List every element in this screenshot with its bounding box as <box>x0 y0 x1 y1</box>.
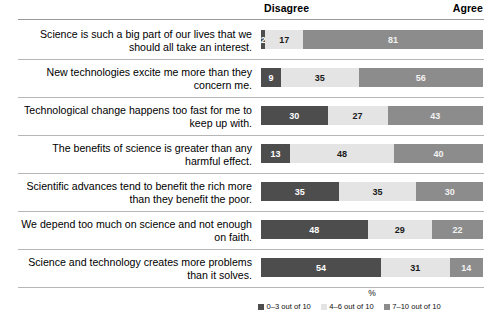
stacked-bar: 482922 <box>261 220 483 239</box>
bar-segment-value: 35 <box>373 187 383 197</box>
row-label-line2: keep up with. <box>190 117 252 130</box>
legend-label: 4–6 out of 10 <box>329 302 373 311</box>
row-question-label: Science and technology creates more prob… <box>14 250 252 288</box>
bar-segment-value: 35 <box>315 73 325 83</box>
bar-segment: 43 <box>388 106 483 125</box>
row-label-line1: Science is such a big part of our lives … <box>40 28 252 41</box>
stacked-bar: 302743 <box>261 106 483 125</box>
bar-segment-value: 22 <box>452 225 462 235</box>
bar-segment: 48 <box>261 220 368 239</box>
legend-item[interactable]: 7–10 out of 10 <box>384 302 441 311</box>
bar-segment: 40 <box>394 144 483 163</box>
legend-swatch-icon <box>258 304 264 310</box>
bar-segment: 56 <box>359 68 483 87</box>
row-question-label: The benefits of science is greater than … <box>14 136 252 174</box>
row-label-line2: on faith. <box>214 231 252 244</box>
stacked-bar: 134840 <box>261 144 483 163</box>
bar-segment: 35 <box>281 68 359 87</box>
bar-segment: 27 <box>328 106 388 125</box>
legend-item[interactable]: 4–6 out of 10 <box>321 302 374 311</box>
stacked-bar: 543114 <box>261 258 483 277</box>
bar-segment: 81 <box>303 30 483 49</box>
bar-segment-value: 43 <box>430 111 440 121</box>
bar-segment-value: 29 <box>395 225 405 235</box>
chart-row: The benefits of science is greater than … <box>0 136 502 174</box>
bar-segment-value: 40 <box>434 149 444 159</box>
row-label-line2: should all take an interest. <box>129 41 252 54</box>
bar-segment: 13 <box>261 144 290 163</box>
row-question-label: Technological change happens too fast fo… <box>14 98 252 136</box>
bar-segment-value: 35 <box>295 187 305 197</box>
bar-segment-value: 48 <box>337 149 347 159</box>
bar-segment: 35 <box>339 182 417 201</box>
legend-swatch-icon <box>384 304 390 310</box>
row-label-line1: Science and technology creates more prob… <box>28 256 252 269</box>
bar-segment-value: 31 <box>410 263 420 273</box>
stacked-bar: 93556 <box>261 68 483 87</box>
chart-row: Science is such a big part of our lives … <box>0 22 502 60</box>
row-label-line1: Scientific advances tend to benefit the … <box>26 180 252 193</box>
bar-segment-value: 54 <box>316 263 326 273</box>
bar-segment: 30 <box>416 182 483 201</box>
bar-segment-value: 56 <box>416 73 426 83</box>
bar-segment: 22 <box>432 220 483 239</box>
stacked-bar: 353530 <box>261 182 483 201</box>
chart-row: Science and technology creates more prob… <box>0 250 502 288</box>
header-disagree-label: Disagree <box>264 2 309 14</box>
bar-segment: 35 <box>261 182 339 201</box>
chart-legend: 0–3 out of 104–6 out of 107–10 out of 10 <box>258 302 498 311</box>
row-label-line1: Technological change happens too fast fo… <box>24 104 252 117</box>
bar-segment: 31 <box>381 258 450 277</box>
bar-segment: 30 <box>261 106 328 125</box>
row-question-label: Science is such a big part of our lives … <box>14 22 252 60</box>
bar-segment-value: 48 <box>309 225 319 235</box>
bar-segment-value: 9 <box>268 73 273 83</box>
row-label-line1: We depend too much on science and not en… <box>21 218 252 231</box>
chart-row: Technological change happens too fast fo… <box>0 98 502 136</box>
bar-segment-value: 17 <box>279 35 289 45</box>
bar-segment-value: 30 <box>445 187 455 197</box>
legend-label: 0–3 out of 10 <box>267 302 311 311</box>
bar-segment-value: 27 <box>353 111 363 121</box>
row-label-line2: concern me. <box>194 79 252 92</box>
row-label-line2: harmful effect. <box>185 155 252 168</box>
legend-label: 7–10 out of 10 <box>392 302 441 311</box>
stacked-bar: 21781 <box>261 30 483 49</box>
row-label-line2: than it solves. <box>187 269 252 282</box>
row-label-line1: New technologies excite me more than the… <box>46 66 252 79</box>
header-agree-label: Agree <box>453 2 483 14</box>
bar-segment: 9 <box>261 68 281 87</box>
bar-segment: 48 <box>290 144 394 163</box>
legend-swatch-icon <box>321 304 327 310</box>
bar-segment-value: 81 <box>388 35 398 45</box>
chart-row: We depend too much on science and not en… <box>0 212 502 250</box>
stacked-bar-chart: Disagree Agree Science is such a big par… <box>0 0 502 318</box>
row-question-label: New technologies excite me more than the… <box>14 60 252 98</box>
row-question-label: We depend too much on science and not en… <box>14 212 252 250</box>
row-label-line2: than they benefit the poor. <box>129 193 252 206</box>
chart-header: Disagree Agree <box>0 0 502 20</box>
legend-item[interactable]: 0–3 out of 10 <box>258 302 311 311</box>
row-label-line1: The benefits of science is greater than … <box>52 142 252 155</box>
bar-segment: 17 <box>265 30 303 49</box>
chart-row: Scientific advances tend to benefit the … <box>0 174 502 212</box>
bar-segment-value: 30 <box>289 111 299 121</box>
bar-segment-value: 13 <box>270 149 280 159</box>
bar-segment: 14 <box>450 258 483 277</box>
chart-row: New technologies excite me more than the… <box>0 60 502 98</box>
header-divider <box>18 19 484 20</box>
bar-segment: 54 <box>261 258 381 277</box>
bar-segment-value: 14 <box>461 263 471 273</box>
bar-segment: 29 <box>368 220 432 239</box>
x-axis-label: % <box>261 288 483 298</box>
row-question-label: Scientific advances tend to benefit the … <box>14 174 252 212</box>
